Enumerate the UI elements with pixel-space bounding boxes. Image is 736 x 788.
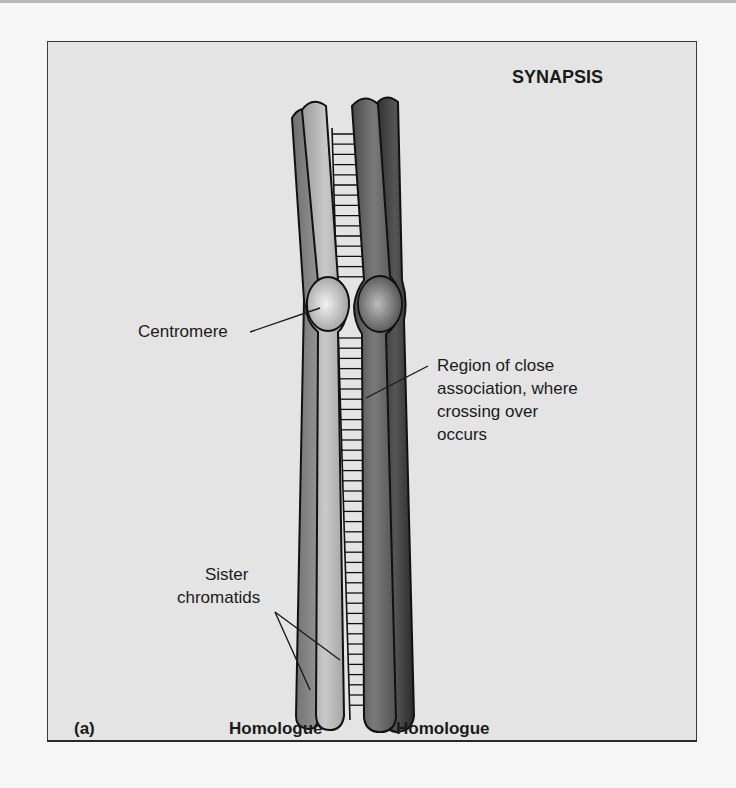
label-sister-line1: Sister [205, 564, 248, 586]
label-region-line2: association, where [437, 378, 578, 400]
label-region-line3: crossing over [437, 401, 538, 423]
label-centromere: Centromere [138, 321, 228, 343]
label-homologue-right: Homologue [396, 718, 490, 740]
centromere-left [307, 277, 349, 331]
label-region-line4: occurs [437, 424, 487, 446]
chromosome-illustration [0, 0, 736, 788]
label-region-line1: Region of close [437, 355, 554, 377]
centromere-right [358, 276, 402, 332]
panel-label: (a) [74, 718, 95, 740]
label-homologue-left: Homologue [229, 718, 323, 740]
figure-title: SYNAPSIS [512, 66, 603, 88]
label-sister-line2: chromatids [177, 587, 260, 609]
